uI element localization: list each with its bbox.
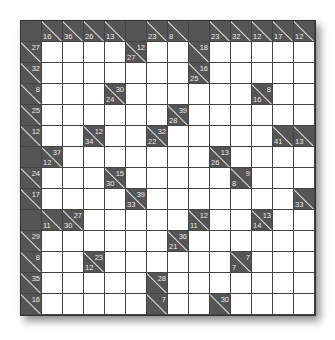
entry-cell[interactable] (84, 273, 105, 294)
entry-cell[interactable] (189, 105, 210, 126)
entry-cell[interactable] (105, 105, 126, 126)
entry-cell[interactable] (84, 231, 105, 252)
entry-cell[interactable] (42, 84, 63, 105)
entry-cell[interactable] (189, 168, 210, 189)
entry-cell[interactable] (126, 210, 147, 231)
entry-cell[interactable] (63, 147, 84, 168)
entry-cell[interactable] (294, 84, 315, 105)
entry-cell[interactable] (105, 210, 126, 231)
entry-cell[interactable] (42, 189, 63, 210)
entry-cell[interactable] (189, 252, 210, 273)
entry-cell[interactable] (84, 189, 105, 210)
entry-cell[interactable] (294, 105, 315, 126)
entry-cell[interactable] (252, 189, 273, 210)
entry-cell[interactable] (294, 294, 315, 315)
entry-cell[interactable] (84, 168, 105, 189)
entry-cell[interactable] (252, 252, 273, 273)
entry-cell[interactable] (147, 105, 168, 126)
entry-cell[interactable] (147, 210, 168, 231)
entry-cell[interactable] (42, 126, 63, 147)
entry-cell[interactable] (42, 294, 63, 315)
entry-cell[interactable] (294, 147, 315, 168)
entry-cell[interactable] (273, 189, 294, 210)
entry-cell[interactable] (105, 252, 126, 273)
entry-cell[interactable] (231, 42, 252, 63)
entry-cell[interactable] (231, 210, 252, 231)
entry-cell[interactable] (294, 42, 315, 63)
entry-cell[interactable] (231, 63, 252, 84)
entry-cell[interactable] (84, 147, 105, 168)
entry-cell[interactable] (42, 252, 63, 273)
entry-cell[interactable] (63, 252, 84, 273)
entry-cell[interactable] (105, 63, 126, 84)
entry-cell[interactable] (273, 63, 294, 84)
entry-cell[interactable] (210, 42, 231, 63)
entry-cell[interactable] (63, 231, 84, 252)
entry-cell[interactable] (231, 126, 252, 147)
entry-cell[interactable] (252, 126, 273, 147)
entry-cell[interactable] (63, 84, 84, 105)
entry-cell[interactable] (126, 63, 147, 84)
entry-cell[interactable] (63, 294, 84, 315)
entry-cell[interactable] (231, 273, 252, 294)
entry-cell[interactable] (147, 63, 168, 84)
entry-cell[interactable] (168, 294, 189, 315)
entry-cell[interactable] (63, 273, 84, 294)
entry-cell[interactable] (294, 168, 315, 189)
entry-cell[interactable] (42, 231, 63, 252)
entry-cell[interactable] (126, 252, 147, 273)
entry-cell[interactable] (189, 273, 210, 294)
entry-cell[interactable] (168, 63, 189, 84)
entry-cell[interactable] (84, 294, 105, 315)
entry-cell[interactable] (168, 273, 189, 294)
entry-cell[interactable] (168, 84, 189, 105)
entry-cell[interactable] (147, 168, 168, 189)
entry-cell[interactable] (252, 294, 273, 315)
entry-cell[interactable] (189, 189, 210, 210)
entry-cell[interactable] (84, 84, 105, 105)
entry-cell[interactable] (273, 105, 294, 126)
entry-cell[interactable] (42, 105, 63, 126)
entry-cell[interactable] (147, 42, 168, 63)
entry-cell[interactable] (273, 168, 294, 189)
entry-cell[interactable] (126, 231, 147, 252)
entry-cell[interactable] (294, 252, 315, 273)
entry-cell[interactable] (147, 84, 168, 105)
entry-cell[interactable] (231, 294, 252, 315)
entry-cell[interactable] (168, 126, 189, 147)
entry-cell[interactable] (210, 210, 231, 231)
entry-cell[interactable] (63, 189, 84, 210)
entry-cell[interactable] (252, 147, 273, 168)
entry-cell[interactable] (252, 42, 273, 63)
entry-cell[interactable] (210, 63, 231, 84)
entry-cell[interactable] (210, 105, 231, 126)
entry-cell[interactable] (231, 189, 252, 210)
entry-cell[interactable] (210, 84, 231, 105)
entry-cell[interactable] (294, 231, 315, 252)
entry-cell[interactable] (294, 63, 315, 84)
entry-cell[interactable] (105, 189, 126, 210)
entry-cell[interactable] (42, 168, 63, 189)
entry-cell[interactable] (273, 84, 294, 105)
entry-cell[interactable] (126, 105, 147, 126)
entry-cell[interactable] (189, 231, 210, 252)
entry-cell[interactable] (210, 189, 231, 210)
entry-cell[interactable] (210, 273, 231, 294)
entry-cell[interactable] (126, 294, 147, 315)
entry-cell[interactable] (189, 147, 210, 168)
entry-cell[interactable] (273, 294, 294, 315)
entry-cell[interactable] (252, 105, 273, 126)
entry-cell[interactable] (273, 210, 294, 231)
entry-cell[interactable] (210, 126, 231, 147)
entry-cell[interactable] (147, 252, 168, 273)
entry-cell[interactable] (42, 63, 63, 84)
entry-cell[interactable] (189, 294, 210, 315)
entry-cell[interactable] (210, 168, 231, 189)
entry-cell[interactable] (168, 252, 189, 273)
entry-cell[interactable] (126, 168, 147, 189)
entry-cell[interactable] (63, 168, 84, 189)
entry-cell[interactable] (168, 168, 189, 189)
entry-cell[interactable] (126, 126, 147, 147)
entry-cell[interactable] (252, 168, 273, 189)
entry-cell[interactable] (84, 105, 105, 126)
